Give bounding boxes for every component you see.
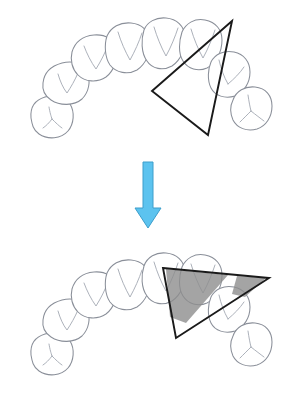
tooth-upper-right-canine (231, 87, 272, 130)
dental-arch-before (31, 18, 272, 138)
overlap-region-right (232, 276, 266, 297)
tooth-upper-left-central-incisor (142, 18, 185, 69)
panel-after (31, 253, 272, 375)
diagram-canvas (0, 0, 294, 402)
panel-before (31, 18, 272, 138)
dental-diagram-figure (0, 0, 294, 402)
tooth-lower-right-canine (231, 323, 272, 366)
dental-arch-after (31, 253, 272, 375)
transition-arrow (135, 162, 161, 228)
